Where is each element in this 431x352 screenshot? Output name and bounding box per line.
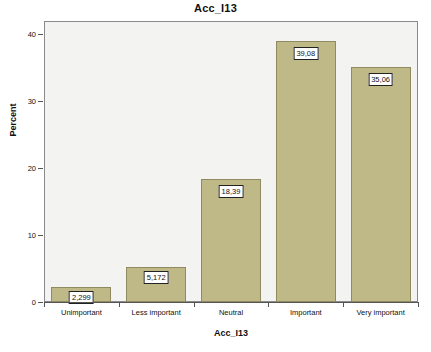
y-axis-ticks: 010203040 [0,0,44,352]
x-axis-tick-mark [343,302,344,307]
bar-value-label: 18,39 [219,185,244,198]
bar-series [44,21,418,302]
y-axis-tick-mark [38,34,43,35]
x-axis-tick-mark [268,302,269,307]
x-axis-tick-label: Neutral [219,308,243,317]
x-axis-tick-mark [44,302,45,307]
bar-value-label: 35,06 [368,73,393,86]
x-axis-title: Acc_I13 [44,328,418,338]
y-axis-tick-label: 40 [12,30,36,39]
x-axis-tick-label: Very important [356,308,404,317]
y-axis-tick-mark [38,168,43,169]
bar-value-label: 5,172 [144,271,169,284]
y-axis-tick-label: 10 [12,231,36,240]
bar [351,67,411,302]
x-axis-tick-mark [418,302,419,307]
x-axis-line [44,302,418,303]
bar [276,41,336,302]
chart-root: Acc_I13 Percent 010203040 2,2995,17218,3… [0,0,431,352]
x-axis-tick-label: Less important [132,308,181,317]
y-axis-tick-mark [38,101,43,102]
y-axis-tick-label: 30 [12,97,36,106]
y-axis-tick-mark [38,302,43,303]
y-axis-tick-mark [38,235,43,236]
chart-title: Acc_I13 [0,2,431,14]
bar-value-label: 39,08 [293,47,318,60]
y-axis-tick-label: 0 [12,298,36,307]
x-axis-tick-mark [194,302,195,307]
x-axis-tick-label: Unimportant [61,308,102,317]
x-axis-tick-mark [119,302,120,307]
y-axis-tick-label: 20 [12,164,36,173]
x-axis-tick-label: Important [290,308,322,317]
